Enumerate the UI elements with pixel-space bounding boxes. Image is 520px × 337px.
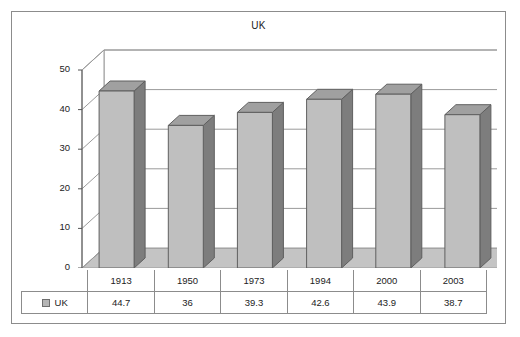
bar-side-face [411,84,422,268]
data-table: 1913 1950 1973 1994 2000 2003 UK 44.7 36… [21,270,487,314]
plot-area: 01020304050 [48,28,497,268]
bar-front-face [445,115,480,268]
plot-3d-svg [48,28,497,268]
bar-side-face [203,115,214,268]
ytick-label-50: 50 [44,63,70,74]
bar-1913 [99,81,145,268]
bar-1994 [307,89,353,268]
table-header-cell: 1994 [287,270,353,292]
table-header-row: 1913 1950 1973 1994 2000 2003 [22,270,487,292]
bar-1950 [168,115,214,268]
legend-cell: UK [22,292,88,314]
bar-front-face [168,125,203,268]
bar-front-face [376,94,411,268]
table-cell-value: 36 [154,292,220,314]
bar-side-face [272,102,283,268]
table-header-cell: 1950 [154,270,220,292]
ytick-label-20: 20 [44,182,70,193]
table-header-cell: 2000 [354,270,420,292]
table-header-cell: 1913 [88,270,154,292]
bar-front-face [237,112,272,268]
table-cell-value: 42.6 [287,292,353,314]
plot-back-wall [104,50,497,248]
legend-label: UK [55,297,68,308]
table-header-cell: 1973 [221,270,287,292]
table-cell-value: 38.7 [420,292,486,314]
bar-front-face [307,99,342,268]
table-cell-value: 44.7 [88,292,154,314]
bar-front-face [99,91,134,268]
chart-frame: UK 01020304050 1913 1950 1973 1994 2000 … [11,11,506,324]
table-cell-value: 39.3 [221,292,287,314]
bar-side-face [480,105,491,268]
bar-side-face [134,81,145,268]
legend-swatch-icon [42,299,50,307]
bar-1973 [237,102,283,268]
table-row: UK 44.7 36 39.3 42.6 43.9 38.7 [22,292,487,314]
ytick-label-40: 40 [44,103,70,114]
table-cell-value: 43.9 [354,292,420,314]
bar-2000 [376,84,422,268]
ytick-label-30: 30 [44,142,70,153]
table-header-cell: 2003 [420,270,486,292]
bar-2003 [445,105,491,268]
ytick-label-10: 10 [44,221,70,232]
bar-side-face [342,89,353,268]
table-header-legend-cell [22,270,88,292]
